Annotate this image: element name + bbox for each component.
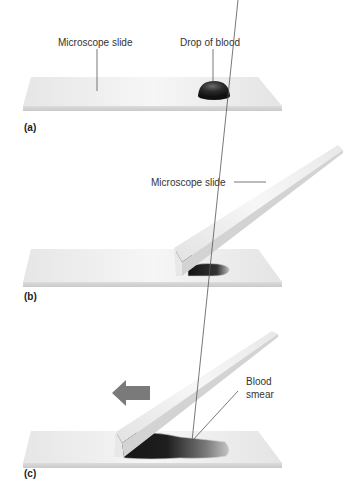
smear-label-line2: smear <box>246 389 274 400</box>
blood-smear-diagram: Microscope slide Drop of blood (a) Micro… <box>0 0 363 499</box>
slide-label: Microscope slide <box>58 37 133 48</box>
slide-label: Microscope slide <box>151 177 226 188</box>
panel-label-c: (c) <box>24 468 36 479</box>
smear-label-line1: Blood <box>246 376 272 387</box>
microscope-slide <box>23 77 282 111</box>
drop-label: Drop of blood <box>180 37 240 48</box>
base-slide <box>23 249 282 287</box>
panel-label-a: (a) <box>24 122 36 133</box>
panel-c: Blood smear (c) <box>23 0 282 479</box>
left-arrow-icon <box>112 380 150 406</box>
panel-label-b: (b) <box>24 291 37 302</box>
panel-a: Microscope slide Drop of blood (a) <box>23 37 282 133</box>
panel-b: Microscope slide (b) <box>23 145 343 302</box>
